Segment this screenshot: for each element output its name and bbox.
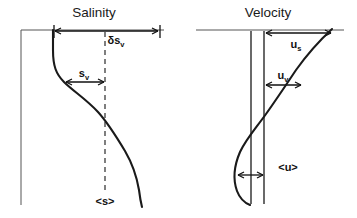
salinity-sv-dimension: sv [66, 67, 104, 85]
salinity-panel-title: Salinity [72, 5, 116, 20]
velocity-uv-label-base: u [278, 69, 285, 81]
velocity-mean-dimension: <u> [238, 161, 298, 178]
salinity-delta-label: δsv [108, 34, 126, 49]
salinity-delta-label-subscript: v [120, 40, 125, 49]
velocity-panel-title: Velocity [245, 5, 292, 20]
velocity-mean-label: <u> [278, 161, 298, 173]
velocity-profile-curve [235, 29, 332, 205]
velocity-us-label-base: u [291, 38, 298, 50]
salinity-panel: Salinity δsv sv <s> [21, 5, 164, 207]
velocity-us-label: us [291, 38, 302, 53]
velocity-us-dimension: us [266, 30, 331, 53]
profiles-figure: Salinity δsv sv <s> Velocity [0, 0, 357, 218]
salinity-sv-label: sv [79, 67, 90, 82]
salinity-mean-label: <s> [96, 195, 115, 207]
velocity-panel: Velocity us uv <u> [196, 5, 344, 205]
salinity-delta-label-base: δs [108, 34, 121, 46]
salinity-profile-curve [53, 30, 142, 207]
salinity-sv-label-subscript: v [85, 73, 90, 82]
velocity-us-label-subscript: s [297, 44, 301, 53]
salinity-delta-dimension: δsv [54, 25, 160, 49]
